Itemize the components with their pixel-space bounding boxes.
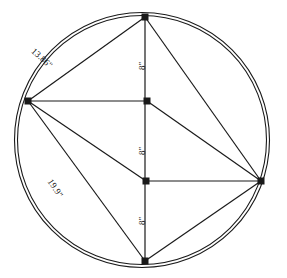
geometry-figure	[0, 0, 287, 278]
interior-point-lower-mid	[143, 178, 150, 185]
outer-circle	[15, 13, 270, 268]
inner-circle	[18, 16, 267, 265]
vertex-bottom	[142, 258, 149, 265]
vertex-left	[25, 98, 32, 105]
segment-right-to-top-chord	[145, 17, 261, 181]
label-vertical-bottom: 8"	[137, 216, 147, 225]
segment-left-to-lower-mid-diagonal	[28, 101, 146, 181]
interior-point-upper-mid	[144, 98, 151, 105]
segment-left-to-bottom-chord	[28, 101, 145, 261]
vertex-top	[142, 14, 149, 21]
label-vertical-middle: 8"	[137, 146, 147, 155]
segment-upper-mid-to-right-diagonal	[147, 101, 261, 181]
vertex-right	[258, 178, 265, 185]
label-vertical-top: 8"	[137, 61, 147, 70]
